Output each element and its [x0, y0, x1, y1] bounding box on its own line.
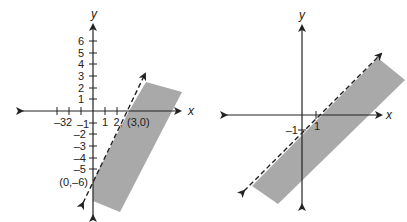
left-y-tick-6: 6	[78, 35, 84, 47]
left-x-tick-m1: –1	[77, 118, 89, 130]
right-y-axis-label: y	[298, 8, 306, 22]
left-point-3-0-label: (3,0)	[127, 116, 150, 128]
left-x-tick-m3: –3	[54, 116, 66, 128]
left-graph: y x 6 5 4 3 2 1 –2 –3 –4 –5 –3 2 –1 1 2,…	[22, 7, 195, 216]
left-x-tick-m2: 2	[66, 116, 72, 128]
left-shaded-region	[93, 82, 182, 212]
right-shaded-region	[252, 58, 405, 204]
left-x-tick-1: 1	[102, 116, 108, 128]
left-x-axis-label: x	[187, 104, 195, 118]
left-y-tick-m5: –5	[74, 163, 86, 175]
graphs-canvas: y x 6 5 4 3 2 1 –2 –3 –4 –5 –3 2 –1 1 2,…	[0, 0, 407, 222]
left-y-axis-label: y	[90, 7, 98, 21]
left-y-tick-1: 1	[78, 93, 84, 105]
right-x-tick-1-label: 1	[314, 120, 320, 132]
left-y-tick-3: 3	[78, 70, 84, 82]
left-x-tick-2: 2,	[113, 116, 122, 128]
right-graph: y x 1 –1	[226, 8, 405, 205]
left-y-tick-m3: –3	[74, 140, 86, 152]
right-x-axis-label: x	[385, 108, 393, 122]
right-y-tick-m1-label: –1	[286, 124, 298, 136]
left-y-tick-4: 4	[78, 58, 84, 70]
left-point-0-m6-label: (0,–6)	[59, 176, 88, 188]
